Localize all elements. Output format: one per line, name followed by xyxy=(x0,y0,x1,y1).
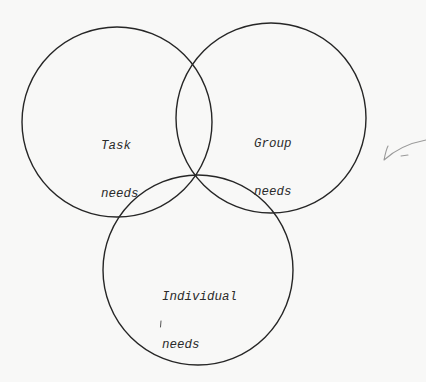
check-mark-icon xyxy=(384,140,426,160)
individual-needs-label-line1: Individual xyxy=(162,289,237,305)
task-needs-label: Task needs xyxy=(101,106,139,234)
individual-needs-label: Individual needs xyxy=(162,257,237,382)
group-needs-label: Group needs xyxy=(254,104,292,232)
task-needs-label-line2: needs xyxy=(101,186,139,202)
group-needs-label-line2: needs xyxy=(254,184,292,200)
venn-diagram: Task needs Group needs Individual needs xyxy=(0,0,426,382)
group-needs-label-line1: Group xyxy=(254,136,292,152)
pencil-tick-icon xyxy=(161,321,162,327)
task-needs-label-line1: Task xyxy=(101,138,139,154)
individual-needs-label-line2: needs xyxy=(162,337,237,353)
